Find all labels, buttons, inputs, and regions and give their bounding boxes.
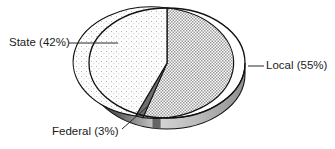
slice-label-federal: Federal (3%) [52,126,118,138]
slice-label-local: Local (55%) [266,60,327,72]
pie-chart-graphic [0,0,335,149]
slice-label-state: State (42%) [9,37,70,49]
pie-chart: State (42%) Local (55%) Federal (3%) [0,0,335,149]
